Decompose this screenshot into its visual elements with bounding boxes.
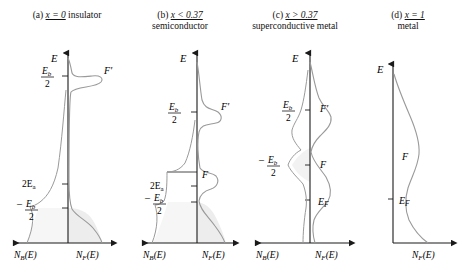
panel-a-tick-label-2ea: 2Ea [22, 179, 37, 191]
panel-a-axis-left-label: NB(E) [13, 250, 37, 262]
panel-a-shaded-band-right [68, 208, 102, 243]
svg-text:2: 2 [172, 115, 177, 125]
panel-b-curve-label-f: F [201, 169, 209, 180]
panel-b-tick-label-minus-eb2: – Eb 2 [144, 192, 166, 216]
panel-d-labels: E F EF NF(E) [376, 64, 435, 262]
svg-text:NF(E): NF(E) [201, 250, 225, 262]
panel-b-tick-label-2ea: 2Ea [150, 181, 165, 193]
svg-text:2: 2 [271, 168, 276, 178]
panel-b-energy-label: E [179, 53, 187, 64]
panel-c-curve-label-fprime: F' [319, 103, 329, 114]
panel-c-tick-label-minus-eb2: – Eb 2 [258, 154, 280, 178]
panel-c-tick-label-eb2: Eb 2 [282, 100, 295, 123]
panel-d-curve-f [394, 74, 428, 243]
svg-text:NB(E): NB(E) [142, 250, 166, 262]
panel-c-plot [256, 53, 350, 243]
panel-d-plot [388, 64, 452, 243]
panel-a-tick-label-eb2: Eb 2 [41, 66, 54, 89]
svg-text:Eb: Eb [25, 199, 36, 211]
panel-c-curve-label-f: F [319, 159, 327, 170]
svg-text:Eb: Eb [168, 102, 179, 114]
svg-text:2: 2 [286, 113, 291, 123]
svg-text:NB(E): NB(E) [13, 250, 37, 262]
panel-d-curve-label-ef: EF [398, 195, 410, 208]
panel-a-curve-label-fprime: F' [103, 65, 113, 76]
svg-text:2: 2 [29, 212, 34, 222]
panel-c-axis-right-label: NF(E) [314, 250, 338, 262]
svg-text:–: – [258, 154, 265, 165]
panel-b-axis-right-label: NF(E) [201, 250, 225, 262]
svg-text:NF(E): NF(E) [314, 250, 338, 262]
svg-text:Eb: Eb [153, 193, 164, 205]
panel-b-axis-left-label: NB(E) [142, 250, 166, 262]
panel-c-labels: E Eb 2 F' – Eb 2 F EF NB(E) NF(E) [255, 53, 338, 262]
panel-a-energy-label: E [50, 53, 58, 64]
panel-d-energy-label: E [376, 64, 384, 75]
svg-text:Eb: Eb [267, 155, 278, 167]
svg-text:–: – [144, 192, 151, 203]
svg-text:NF(E): NF(E) [75, 250, 99, 262]
svg-text:2: 2 [45, 79, 50, 89]
panel-a-axis-right-label: NF(E) [75, 250, 99, 262]
dos-figure: E Eb 2 2Ea – Eb 2 F' NB(E) NF(E) [0, 0, 465, 271]
svg-text:2: 2 [157, 206, 162, 216]
panel-c-curve-fprime [310, 62, 331, 243]
panel-d-curve-label-f: F [401, 151, 409, 162]
svg-text:NF(E): NF(E) [411, 250, 435, 262]
panel-b-curve-label-fprime: F' [220, 101, 230, 112]
svg-text:Eb: Eb [41, 66, 52, 78]
panel-d-axis-right-label: NF(E) [411, 250, 435, 262]
panel-c-axis-left-label: NB(E) [255, 250, 279, 262]
panel-b-tick-label-eb2: Eb 2 [168, 102, 181, 125]
svg-text:NB(E): NB(E) [255, 250, 279, 262]
svg-text:–: – [16, 198, 23, 209]
panel-a-tick-label-minus-eb2: – Eb 2 [16, 198, 38, 222]
svg-text:Eb: Eb [282, 100, 293, 112]
panel-c-energy-label: E [291, 53, 299, 64]
